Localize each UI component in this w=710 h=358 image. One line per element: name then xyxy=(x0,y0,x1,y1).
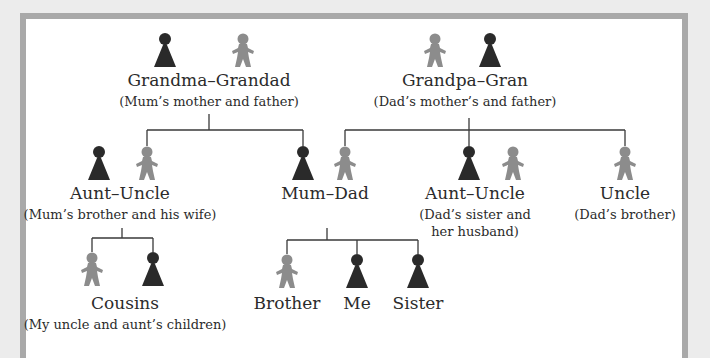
connector-siblings xyxy=(287,228,418,254)
parents-label: Mum–Dad xyxy=(281,183,369,203)
me-figure-icon xyxy=(346,254,368,288)
cousins-label: Cousins xyxy=(91,293,159,313)
paternal-aunt-uncle-desc-line1: (Dad’s sister and xyxy=(419,206,531,223)
maternal-grandparents-label: Grandma–Grandad xyxy=(127,70,290,90)
grandad-figure-icon xyxy=(232,34,254,68)
paternal-aunt-uncle-desc-line2: her husband) xyxy=(431,223,519,240)
gran-figure-icon xyxy=(479,33,501,67)
cousins-desc: (My uncle and aunt’s children) xyxy=(24,316,227,333)
cousin-female-figure-icon xyxy=(142,252,164,286)
grandpa-figure-icon xyxy=(424,34,446,68)
brother-label: Brother xyxy=(254,293,321,313)
me-label: Me xyxy=(343,293,370,313)
uncle-paternal-figure-icon xyxy=(614,147,636,181)
maternal-aunt-uncle-desc: (Mum’s brother and his wife) xyxy=(24,206,217,223)
aunt-paternal-figure-icon xyxy=(458,146,480,180)
paternal-grandparents-label: Grandpa–Gran xyxy=(402,70,528,90)
paternal-uncle-label: Uncle xyxy=(600,183,650,203)
connector-cousins xyxy=(92,228,153,252)
paternal-uncle-desc: (Dad’s brother) xyxy=(574,206,675,223)
uncle-maternal-figure-icon xyxy=(136,147,158,181)
brother-figure-icon xyxy=(276,255,298,289)
grandma-figure-icon xyxy=(154,33,176,67)
aunt-maternal-figure-icon xyxy=(88,146,110,180)
sister-figure-icon xyxy=(407,254,429,288)
uncle-paternal-by-marriage-figure-icon xyxy=(502,147,524,181)
maternal-grandparents-desc: (Mum’s mother and father) xyxy=(119,93,299,110)
dad-figure-icon xyxy=(334,147,356,181)
cousin-male-figure-icon xyxy=(81,253,103,287)
maternal-aunt-uncle-label: Aunt–Uncle xyxy=(70,183,170,203)
connector-maternal xyxy=(147,114,303,146)
connector-paternal xyxy=(345,118,625,146)
sister-label: Sister xyxy=(393,293,444,313)
paternal-grandparents-desc: (Dad’s mother’s and father) xyxy=(374,93,557,110)
mum-figure-icon xyxy=(292,146,314,180)
paternal-aunt-uncle-label: Aunt–Uncle xyxy=(425,183,525,203)
